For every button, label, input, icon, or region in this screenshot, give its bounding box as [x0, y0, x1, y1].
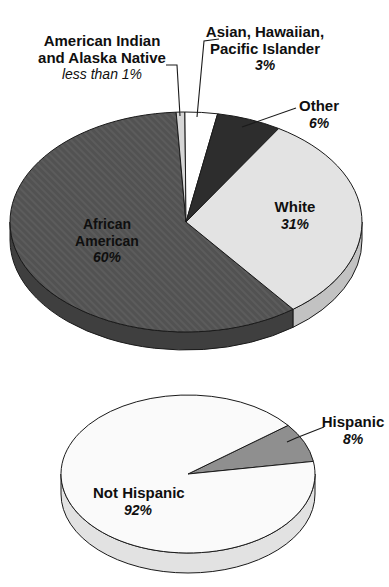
callout-not-hispanic-pct: 92%: [93, 502, 183, 519]
callout-white: White 31%: [260, 199, 330, 232]
callout-african-american-pct: 60%: [67, 249, 147, 266]
callout-not-hispanic: Not Hispanic 92%: [93, 485, 183, 518]
callout-asian-line1: Asian, Hawaiian,: [195, 24, 335, 41]
callout-hispanic: Hispanic 8%: [318, 414, 388, 447]
callout-other-line1: Other: [284, 98, 354, 115]
callout-american-indian: American Indian and Alaska Native less t…: [28, 33, 176, 83]
callout-other: Other 6%: [284, 98, 354, 131]
callout-african-american-line1: African: [67, 216, 147, 233]
callout-hispanic-pct: 8%: [318, 431, 388, 448]
race-ethnicity-pie-figure: American Indian and Alaska Native less t…: [0, 0, 389, 587]
callout-african-american-line2: American: [67, 233, 147, 250]
ethnicity-slice-not-hispanic: [61, 395, 315, 553]
callout-hispanic-line1: Hispanic: [318, 414, 388, 431]
callout-american-indian-pct: less than 1%: [28, 66, 176, 83]
pie-charts-canvas: [0, 0, 389, 587]
callout-white-line1: White: [260, 199, 330, 216]
callout-white-pct: 31%: [260, 216, 330, 233]
callout-asian-line2: Pacific Islander: [195, 41, 335, 58]
callout-african-american: African American 60%: [67, 216, 147, 266]
callout-american-indian-line2: and Alaska Native: [28, 50, 176, 67]
callout-not-hispanic-line1: Not Hispanic: [93, 485, 183, 502]
callout-asian-pct: 3%: [195, 57, 335, 74]
callout-american-indian-line1: American Indian: [28, 33, 176, 50]
callout-asian-hawaiian-pacific-islander: Asian, Hawaiian, Pacific Islander 3%: [195, 24, 335, 74]
callout-other-pct: 6%: [284, 115, 354, 132]
